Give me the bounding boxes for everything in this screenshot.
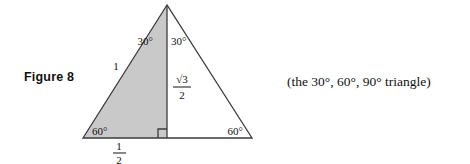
base-length-fraction: 1 2 [113,140,126,164]
angle-label-base-left: 60° [92,125,107,137]
figure-side-note: (the 30°, 60°, 90° triangle) [287,74,431,90]
base-fraction-numerator: 1 [116,140,122,152]
angle-label-base-right: 60° [228,125,243,137]
figure-container: Figure 8 30° 30° 60° 60° 1 √3 2 1 2 (the [0,0,470,164]
altitude-length-fraction: √3 2 [173,73,191,101]
angle-label-apex-left: 30° [138,35,153,47]
base-fraction-denominator: 2 [116,154,122,164]
altitude-fraction-numerator: √3 [176,73,188,85]
side-label-hypotenuse: 1 [113,60,119,72]
angle-label-apex-right: 30° [171,35,186,47]
altitude-fraction-denominator: 2 [179,89,185,101]
